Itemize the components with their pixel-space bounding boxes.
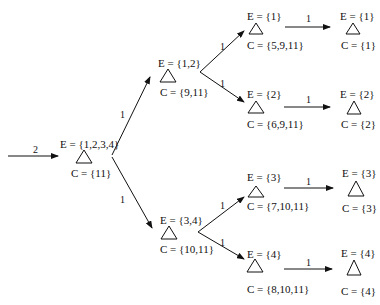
- node-l2-e-label: E = {2}: [340, 88, 374, 100]
- node-l2-c-label: C = {2}: [341, 118, 376, 130]
- node-n4-e-label: E = {4}: [247, 248, 281, 260]
- triangle-icon-l2: [347, 101, 361, 114]
- node-n3-e-label: E = {3}: [247, 171, 281, 183]
- node-n34-e-label: E = {3,4}: [160, 214, 203, 226]
- triangle-icon-n34: [161, 226, 177, 239]
- node-n4-c-label: C = {8,10,11}: [247, 283, 309, 295]
- node-l3-e-label: E = {3}: [342, 167, 376, 179]
- triangle-icon-l3: [348, 181, 364, 196]
- edge-label-root-n12: 1: [120, 110, 125, 120]
- edge-label-n34-n3: 1: [220, 201, 225, 211]
- triangle-icon-n4: [247, 259, 263, 272]
- edge-label-n3-l3: 1: [306, 177, 311, 187]
- node-root-c-label: C = {11}: [71, 167, 111, 179]
- triangle-icon-root: [76, 150, 92, 163]
- triangle-icon-n2: [248, 101, 264, 113]
- node-n2-e-label: E = {2}: [247, 88, 281, 100]
- edge-label-n12-n2: 1: [220, 79, 225, 89]
- node-n2-c-label: C = {6,9,11}: [247, 118, 304, 130]
- node-n3-c-label: C = {7,10,11}: [247, 200, 309, 212]
- node-root-e-label: E = {1,2,3,4}: [60, 138, 119, 150]
- triangle-icon-n3: [248, 186, 264, 197]
- triangle-icon-n1: [249, 23, 263, 34]
- node-l1-e-label: E = {1}: [340, 10, 374, 22]
- node-l4-e-label: E = {4}: [341, 247, 375, 259]
- tree-diagram-canvas: [0, 0, 380, 305]
- edge-label-n34-n4: 1: [220, 238, 225, 248]
- node-l3-c-label: C = {3}: [342, 202, 377, 214]
- edge-label-input: 2: [33, 145, 38, 155]
- edge-label-root-n34: 1: [120, 195, 125, 205]
- node-n1-c-label: C = {5,9,11}: [247, 39, 304, 51]
- edge-label-n1-l1: 1: [306, 14, 311, 24]
- node-n12-e-label: E = {1,2}: [158, 57, 201, 69]
- edge-label-n2-l2: 1: [306, 95, 311, 105]
- node-n34-c-label: C = {10,11}: [160, 243, 214, 255]
- node-l4-c-label: C = {4}: [341, 285, 376, 297]
- edge-root-n34: [112, 157, 152, 228]
- triangle-icon-l4: [347, 260, 361, 275]
- node-l1-c-label: C = {1}: [341, 39, 376, 51]
- edge-label-n4-l4: 1: [306, 258, 311, 268]
- triangle-icon-l1: [346, 23, 360, 34]
- triangle-icon-n12: [160, 69, 176, 82]
- edge-label-n12-n1: 1: [220, 42, 225, 52]
- node-n12-c-label: C = {9,11}: [160, 86, 208, 98]
- node-n1-e-label: E = {1}: [247, 10, 281, 22]
